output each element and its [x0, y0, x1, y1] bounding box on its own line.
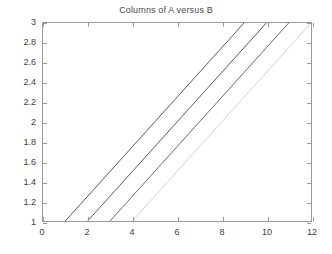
y-tick-mark [43, 183, 47, 184]
x-tick-mark [313, 23, 314, 27]
y-tick-label: 2.6 [0, 57, 36, 67]
y-tick-mark [43, 163, 47, 164]
x-tick-label: 8 [219, 227, 224, 237]
x-tick-mark [313, 217, 314, 221]
x-tick-label: 10 [262, 227, 272, 237]
y-tick-mark [43, 43, 47, 44]
y-tick-mark [43, 83, 47, 84]
x-tick-mark [43, 217, 44, 221]
y-tick-label: 1.8 [0, 137, 36, 147]
x-tick-mark [133, 217, 134, 221]
x-tick-mark [268, 217, 269, 221]
series-line [88, 23, 267, 221]
x-tick-mark [178, 23, 179, 27]
y-tick-label: 1 [0, 217, 36, 227]
y-tick-mark [43, 63, 47, 64]
y-tick-label: 2.4 [0, 77, 36, 87]
y-tick-mark [307, 203, 311, 204]
y-tick-mark [307, 23, 311, 24]
y-tick-mark [307, 43, 311, 44]
series-line [110, 23, 289, 221]
x-tick-mark [88, 23, 89, 27]
y-tick-label: 2 [0, 117, 36, 127]
x-tick-mark [178, 217, 179, 221]
series-line [65, 23, 244, 221]
y-tick-mark [307, 123, 311, 124]
x-tick-mark [133, 23, 134, 27]
y-tick-mark [43, 223, 47, 224]
x-tick-label: 4 [129, 227, 134, 237]
chart-title: Columns of A versus B [0, 5, 332, 16]
y-tick-mark [43, 203, 47, 204]
y-tick-label: 2.8 [0, 37, 36, 47]
y-tick-mark [43, 103, 47, 104]
figure-canvas: Columns of A versus B 02468101211.21.41.… [0, 0, 332, 254]
y-tick-mark [307, 183, 311, 184]
x-tick-label: 0 [39, 227, 44, 237]
x-tick-mark [223, 217, 224, 221]
plot-lines [43, 23, 311, 221]
y-tick-mark [43, 123, 47, 124]
y-tick-mark [307, 83, 311, 84]
series-line [132, 23, 311, 221]
y-tick-label: 2.2 [0, 97, 36, 107]
x-tick-mark [223, 23, 224, 27]
y-tick-label: 1.6 [0, 157, 36, 167]
x-tick-label: 6 [174, 227, 179, 237]
y-tick-mark [307, 103, 311, 104]
y-tick-mark [307, 63, 311, 64]
y-tick-mark [43, 23, 47, 24]
y-tick-mark [307, 223, 311, 224]
x-tick-mark [268, 23, 269, 27]
x-tick-label: 2 [84, 227, 89, 237]
x-tick-mark [88, 217, 89, 221]
y-tick-mark [43, 143, 47, 144]
y-tick-label: 1.4 [0, 177, 36, 187]
x-tick-label: 12 [307, 227, 317, 237]
plot-area [42, 22, 312, 222]
y-tick-mark [307, 143, 311, 144]
y-tick-label: 3 [0, 17, 36, 27]
y-tick-mark [307, 163, 311, 164]
y-tick-label: 1.2 [0, 197, 36, 207]
